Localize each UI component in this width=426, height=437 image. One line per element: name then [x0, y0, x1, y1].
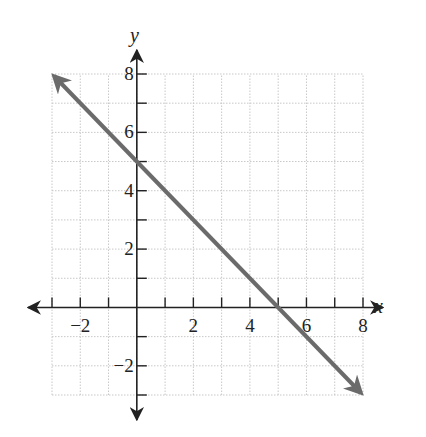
- y-tick-label: −2: [114, 355, 134, 376]
- y-tick-label: 4: [124, 180, 134, 201]
- y-tick-label: 2: [124, 238, 134, 259]
- x-axis-label: x: [373, 295, 383, 317]
- plotted-line: [54, 76, 361, 393]
- x-tick-label: 2: [189, 315, 199, 336]
- y-axis-label: y: [128, 24, 139, 47]
- coordinate-plane: −22468−22468 x y: [0, 0, 426, 437]
- x-tick-label: 8: [358, 315, 368, 336]
- y-tick-label: 6: [124, 121, 134, 142]
- x-tick-label: 4: [245, 315, 255, 336]
- y-tick-label: 8: [124, 63, 134, 84]
- line-series: [54, 76, 361, 393]
- x-tick-label: −2: [70, 315, 90, 336]
